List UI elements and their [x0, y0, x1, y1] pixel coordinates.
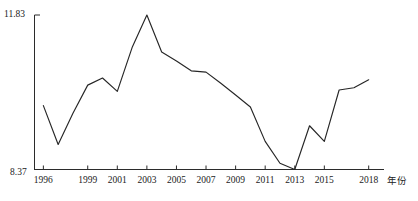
- x-axis-tick-label: 2013: [285, 175, 304, 185]
- y-axis-min-label: 8.37: [10, 167, 27, 177]
- line-chart: 11.83 8.37 19961999200120032005200720092…: [0, 0, 418, 201]
- x-axis-tick-label: 2003: [137, 175, 156, 185]
- x-axis-title: 年份: [387, 176, 407, 186]
- chart-plot-area: [0, 0, 418, 201]
- x-tick-marks: [43, 166, 368, 170]
- x-axis-tick-label: 2015: [315, 175, 334, 185]
- x-axis-tick-label: 2001: [108, 175, 127, 185]
- x-axis-tick-label: 1996: [34, 175, 53, 185]
- y-axis-max-label: 11.83: [4, 9, 25, 19]
- axis-lines: [35, 15, 385, 170]
- x-axis-tick-label: 2009: [226, 175, 245, 185]
- x-axis-tick-label: 2007: [197, 175, 216, 185]
- x-axis-tick-label: 2011: [256, 175, 275, 185]
- x-axis-tick-label: 2005: [167, 175, 186, 185]
- x-axis-tick-label: 1999: [78, 175, 97, 185]
- x-axis-tick-label: 2018: [359, 175, 378, 185]
- data-series-line: [43, 15, 368, 170]
